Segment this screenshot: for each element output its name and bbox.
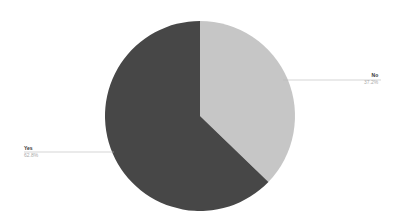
label-no: No 37.2% — [370, 73, 378, 85]
label-no-name: No — [370, 73, 378, 78]
label-no-percent: 37.2% — [364, 80, 378, 85]
pie-chart — [0, 0, 395, 224]
label-yes: Yes 62.8% — [24, 146, 38, 158]
label-yes-percent: 62.8% — [24, 153, 38, 158]
label-yes-name: Yes — [24, 146, 38, 151]
